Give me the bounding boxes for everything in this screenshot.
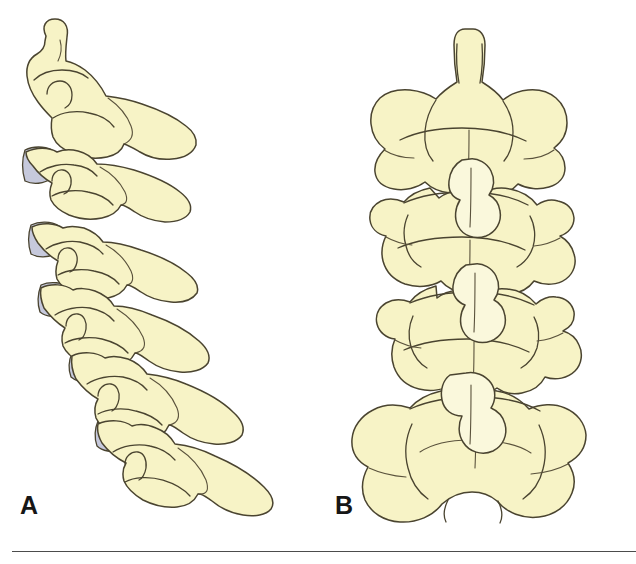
figure-caption — [12, 559, 636, 564]
figure-root: .bone { fill: #F7F3C6; stroke: #4a4430; … — [0, 0, 636, 564]
panel-label-b: B — [335, 493, 353, 518]
cervical-spine-illustration: .bone { fill: #F7F3C6; stroke: #4a4430; … — [0, 0, 636, 564]
panel-label-a: A — [20, 493, 38, 518]
figure-divider-rule — [12, 551, 636, 552]
